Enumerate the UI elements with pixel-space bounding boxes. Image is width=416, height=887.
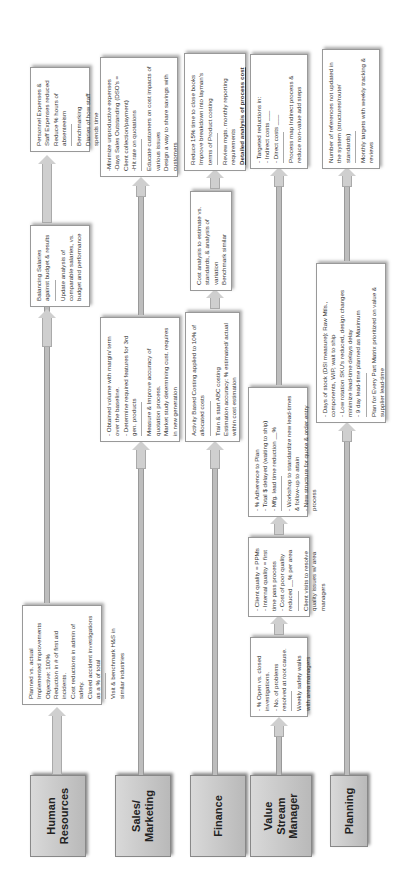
text-line: Monthly targets with weekly tracking & r… (359, 55, 376, 163)
text-line: Visit & benchmark H&S in similar industr… (109, 611, 126, 699)
separator (71, 124, 72, 146)
separator (55, 280, 56, 301)
arrow-connector (274, 523, 284, 535)
text-line: Balancing Salaries against budget & resu… (35, 231, 52, 301)
lane-line (276, 185, 282, 385)
text-line: -Days Sales Outstanding (DSO's = Client … (113, 63, 130, 171)
hr-box-1: Planned vs. actual Implemented improveme… (22, 605, 102, 705)
text-line: Educate customers on cost impacts of var… (145, 63, 162, 171)
hr-box-2: Balancing Salaries against budget & resu… (30, 225, 90, 307)
text-line: Measure & Improve accuracy of quotation … (145, 323, 162, 436)
text-line: Personnel Expenses & Staff Expenses redu… (35, 73, 52, 146)
arrow-connector (136, 449, 146, 469)
text-line: - No. of problems resolved at root cause… (272, 643, 289, 711)
separator (105, 673, 106, 699)
separator (281, 476, 282, 511)
text-line: - Obtained volume with margin/ term over… (105, 323, 122, 436)
separator (298, 591, 299, 611)
lane-line (138, 195, 144, 315)
lane-line (138, 455, 144, 775)
text-line: Weekly safety walks with area managers (295, 643, 312, 711)
lane-line (344, 181, 350, 261)
text-line: Activity Based Costing applied to 10% of… (190, 318, 207, 436)
text-line: Objective: 100% (44, 611, 52, 699)
text-line: Plan for Every Part Matrix prioritized o… (370, 269, 387, 417)
vsm-box-3: - % Adherence to Plan - Total $ delayed … (248, 387, 308, 517)
text-line: Detailed analysis of process cost (238, 59, 246, 165)
diagram-canvas: Human Resources Planned vs. actual Imple… (0, 0, 416, 887)
text-line: - Targeted reductions in: (255, 60, 263, 163)
arrow-connector (42, 317, 52, 347)
text-line: Number of references not updated in the … (327, 55, 352, 163)
text-line: - Direct costs ___ (272, 60, 280, 163)
text-line: Estimation accuracy: % estimated/ actual… (222, 318, 239, 436)
separator (210, 401, 211, 436)
lane-planning: Planning (330, 775, 368, 847)
text-line: - Indirect costs ___ (263, 60, 271, 163)
lane-line (212, 455, 218, 775)
separator (141, 139, 142, 171)
text-line: - Days of stock (DSI measure): Raw Mtls.… (321, 269, 338, 417)
separator (291, 691, 292, 711)
text-line: - Low rotation SKU's reduced, design cha… (338, 269, 355, 417)
vsm-box-2: - Client quality = PPMs - Internal quali… (248, 537, 310, 617)
text-line: Process map Indirect process & reduce no… (287, 60, 304, 163)
arrow-connector (210, 297, 220, 309)
planning-box-2: Number of references not updated in the … (322, 49, 380, 169)
arrow-connector (210, 449, 220, 469)
text-line: Reduce 15% time to close books (189, 59, 197, 165)
finance-box-1: Activity Based Costing applied to 10% of… (185, 312, 240, 442)
arrow-connector (274, 725, 284, 737)
separator (366, 373, 367, 417)
text-line: - Workshop to standardize new lead-times… (285, 393, 302, 511)
text-line: Reduce % hours of absenteeism (52, 73, 69, 146)
lane-line (344, 430, 350, 775)
text-line: - Mfg. lead time reduction __% (270, 393, 278, 511)
text-line: Diaries of how staff spends time (84, 73, 101, 146)
arrow-connector (274, 175, 284, 187)
text-line: Planned vs. actual Implemented improveme… (27, 611, 44, 699)
separator (355, 131, 356, 163)
text-line: - Internal quality = first time pass pro… (261, 543, 278, 611)
text-line: Market study determining cust. requires … (162, 323, 179, 436)
lane-finance: Finance (190, 775, 246, 857)
text-line: -Hit rate on quotations (130, 63, 138, 171)
text-line: Closed accident investigations as a % of… (86, 611, 103, 699)
text-line: - Determine required features for 3rd ge… (122, 323, 139, 436)
text-line: Review mgts. monthly reporting requireme… (221, 59, 238, 165)
separator (217, 133, 218, 165)
text-line: Benchmarking (75, 73, 83, 146)
text-line: - Total $ delayed (waiting to ship) (261, 393, 269, 511)
hr-box-3: Personnel Expenses & Staff Expenses redu… (30, 67, 90, 152)
arrow-connector (136, 185, 146, 197)
arrow-connector (342, 175, 352, 187)
text-line: Improve breakdown into layman's terms of… (197, 59, 214, 165)
planning-box-1: - Days of stock (DSI measure): Raw Mtls.… (316, 263, 386, 423)
separator (141, 402, 142, 436)
text-line: - 9 day lead-time planned as Maximum (354, 269, 362, 417)
vsm-box-1: - % Open vs. closed investigations. - No… (250, 637, 308, 717)
arrow-connector (342, 430, 352, 442)
finance-box-3: Reduce 15% time to close books Improve b… (184, 53, 246, 171)
sales-box-1: - Obtained volume with margin/ term over… (100, 317, 180, 442)
arrow-connector (274, 623, 284, 635)
text-line: - % Adherence to Plan (253, 393, 261, 511)
arrow-connector (210, 177, 220, 189)
separator (283, 132, 284, 163)
lane-sales-marketing: Sales/ Marketing (115, 775, 171, 857)
text-line: -Minimize unproductive expenses (105, 63, 113, 171)
text-line: Design a way to share savings with custo… (162, 63, 179, 171)
text-line: Cost analysis to estimate vs. standards,… (195, 197, 220, 285)
arrow-connector (52, 715, 62, 775)
sales-box-2: -Minimize unproductive expenses -Days Sa… (100, 57, 178, 177)
text-line: - Client quality = PPMs (253, 543, 261, 611)
vsm-box-4: - Targeted reductions in: - Indirect cos… (250, 54, 308, 169)
finance-box-2: Cost analysis to estimate vs. standards,… (190, 191, 232, 291)
text-line: Client visits to resolve quality issues … (302, 543, 327, 611)
text-line: Train & start ABC costing (214, 318, 222, 436)
lane-line (44, 303, 50, 603)
lane-human-resources: Human Resources (30, 775, 86, 857)
text-line: - Cost of poor quality reduced __% per a… (278, 543, 295, 611)
text-line: - % Open vs. closed investigations. (255, 643, 272, 711)
arrow-connector (42, 163, 52, 223)
